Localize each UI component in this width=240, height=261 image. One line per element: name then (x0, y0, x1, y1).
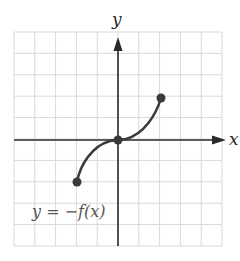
endpoint-right-dot (157, 94, 166, 103)
equation-label: y = −f(x) (31, 202, 105, 221)
y-axis-arrow-icon (114, 37, 123, 51)
x-axis-arrow-icon (212, 136, 226, 145)
x-axis-label: x (229, 129, 239, 149)
y-axis-label: y (111, 9, 122, 29)
endpoint-left-dot (73, 178, 82, 187)
graph-canvas: x y y = −f(x) (0, 0, 240, 261)
origin-dot (114, 136, 123, 145)
